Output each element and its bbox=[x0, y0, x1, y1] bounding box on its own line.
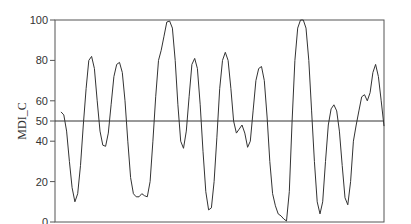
y-axis-label: MDI_C bbox=[15, 102, 29, 139]
y-tick-label: 40 bbox=[36, 135, 48, 147]
line-chart: 02040506080100 MDI_C bbox=[0, 0, 411, 224]
y-tick-label: 60 bbox=[36, 95, 48, 107]
y-tick-label: 100 bbox=[30, 14, 48, 26]
y-tick-label: 20 bbox=[36, 176, 48, 188]
y-tick-label: 80 bbox=[36, 54, 48, 66]
y-axis: 02040506080100 bbox=[30, 14, 55, 224]
y-tick-label: 0 bbox=[42, 216, 48, 224]
y-tick-label: 50 bbox=[36, 115, 48, 127]
